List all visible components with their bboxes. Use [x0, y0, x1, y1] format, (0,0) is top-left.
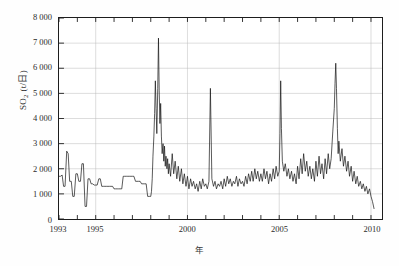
y-tick-label: 5 000	[6, 89, 52, 98]
y-tick-label: 2 000	[6, 165, 52, 174]
y-tick-label: 3 000	[6, 139, 52, 148]
y-tick-label: 1 000	[6, 190, 52, 199]
y-tick-label: 7 000	[6, 38, 52, 47]
x-tick-label: 2010	[363, 224, 380, 234]
y-tick-label: 4 000	[6, 114, 52, 123]
so2-emission-chart: SO2 (t/日) 01 0002 0003 0004 0005 0006 00…	[0, 0, 399, 266]
plot-area	[58, 17, 383, 220]
x-tick-label: 2000	[179, 224, 196, 234]
data-series-line	[59, 18, 382, 219]
x-tick-label: 1995	[86, 224, 103, 234]
y-tick-label: 6 000	[6, 63, 52, 72]
y-tick-label: 8 000	[6, 13, 52, 22]
x-tick-label: 2005	[271, 224, 288, 234]
y-tick-label: 0	[6, 216, 52, 225]
x-tick-label: 1993	[50, 224, 67, 234]
x-axis-tick-labels: 19931995200020052010	[0, 224, 399, 240]
x-axis-title: 年	[0, 243, 399, 255]
